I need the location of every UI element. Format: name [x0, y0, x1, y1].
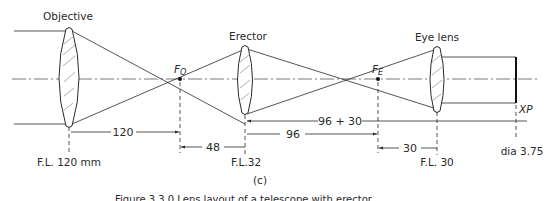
dim-erector-to-fe: 96	[286, 128, 300, 141]
dim-fo-to-erector: 48	[206, 141, 220, 154]
telescope-erector-diagram: 120 96 + 30 96 48 30 Objective Erector E…	[0, 0, 549, 201]
objective-focal-length: F.L. 120 mm	[37, 156, 101, 168]
dim-objective-to-fo: 120	[113, 126, 134, 139]
fe-label: FE	[372, 63, 384, 77]
figure-caption: Figure 3.3.0 Lens layout of a telescope …	[115, 194, 373, 201]
eye-lens	[430, 47, 444, 113]
erector-focal-length: F.L.32	[231, 156, 261, 168]
objective-label: Objective	[43, 10, 93, 22]
erector-lens	[238, 46, 253, 115]
focal-point-fo	[178, 77, 182, 81]
exit-pupil-label: XP	[518, 103, 533, 115]
dim-erector-to-xp: 96 + 30	[318, 115, 362, 128]
eye-lens-label: Eye lens	[415, 31, 459, 43]
dim-fe-to-eye: 30	[403, 142, 417, 155]
eye-lens-focal-length: F.L. 30	[420, 156, 454, 168]
extension-lines	[69, 82, 516, 155]
objective-lens	[59, 28, 79, 128]
panel-label: (c)	[253, 174, 267, 186]
fo-label: FO	[174, 63, 186, 77]
focal-point-fe	[376, 77, 380, 81]
exit-pupil-diameter: dia 3.75	[501, 145, 544, 157]
erector-label: Erector	[229, 30, 267, 42]
